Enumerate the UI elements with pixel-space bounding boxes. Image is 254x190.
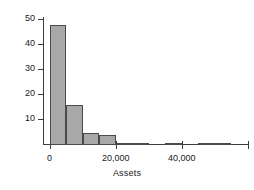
bar xyxy=(198,143,215,146)
y-tick-50: 50 xyxy=(38,19,44,20)
x-axis-title: Assets xyxy=(0,168,254,178)
y-tick-40: 40 xyxy=(38,44,44,45)
y-tick-label-40: 40 xyxy=(25,38,35,49)
x-tick-60000 xyxy=(248,141,249,149)
plot-area: 1020304050 020,00040,000 xyxy=(43,14,248,146)
bar xyxy=(50,25,67,145)
y-tick-label-10: 10 xyxy=(25,113,35,124)
bar xyxy=(165,143,182,146)
y-tick-label-20: 20 xyxy=(25,88,35,99)
x-tick-label-0: 0 xyxy=(47,153,52,164)
x-tick-label-40000: 40,000 xyxy=(168,153,196,164)
histogram-figure: # of Companies 1020304050 020,00040,000 … xyxy=(0,0,254,190)
bar xyxy=(116,143,133,146)
y-tick-30: 30 xyxy=(38,69,44,70)
x-tick-40000 xyxy=(182,141,183,149)
bar xyxy=(99,135,116,145)
y-tick-20: 20 xyxy=(38,94,44,95)
x-tick-label-20000: 20,000 xyxy=(102,153,130,164)
bar xyxy=(66,105,83,145)
y-tick-label-50: 50 xyxy=(25,13,35,24)
bar xyxy=(215,143,232,146)
y-axis-line xyxy=(43,17,44,145)
bar xyxy=(132,143,149,146)
y-tick-10: 10 xyxy=(38,119,44,120)
bar xyxy=(83,133,100,146)
y-tick-label-30: 30 xyxy=(25,63,35,74)
